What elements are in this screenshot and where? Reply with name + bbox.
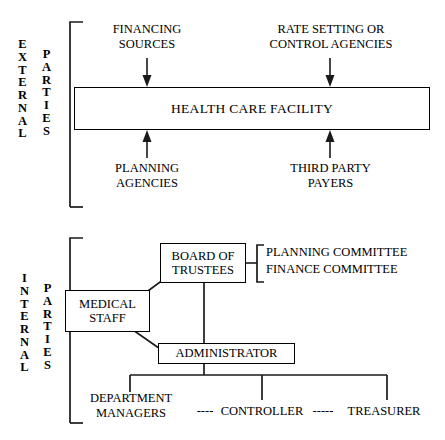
section-label-external-word: E X T E R N A L <box>18 38 27 140</box>
connector-layer <box>0 0 445 440</box>
third-party-payers-label: THIRD PARTY PAYERS <box>258 161 403 190</box>
vletter: A <box>42 61 51 74</box>
treasurer-label: TREASURER <box>341 404 427 419</box>
financing-sources-arrowhead <box>143 75 152 87</box>
planning-committee-label: PLANNING COMMITTEE <box>266 245 441 260</box>
committee-bracket <box>257 245 264 282</box>
section-label-external-parties: P A R T I E S <box>42 48 51 137</box>
finance-committee-label: FINANCE COMMITTEE <box>266 262 441 277</box>
treasurer-dash-right: ----- <box>303 404 343 419</box>
vletter: N <box>18 102 27 115</box>
rate-setting-arrowhead <box>326 75 335 87</box>
financing-sources-label: FINANCING SOURCES <box>87 22 207 51</box>
vletter: S <box>44 359 51 372</box>
vletter: X <box>18 51 27 64</box>
vletter: L <box>20 361 28 374</box>
vletter: P <box>44 282 52 295</box>
controller-dash-left: ---- <box>188 404 222 419</box>
administrator-box: ADMINISTRATOR <box>158 343 295 364</box>
vletter: R <box>18 89 27 102</box>
section-label-internal-parties: P A R T I E S <box>43 282 52 371</box>
vletter: N <box>20 285 29 298</box>
controller-label: CONTROLLER <box>219 404 305 419</box>
planning-agencies-label: PLANNING AGENCIES <box>87 161 207 190</box>
vletter: P <box>43 48 51 61</box>
department-managers-label: DEPARTMENT MANAGERS <box>72 391 190 420</box>
vletter: L <box>18 127 26 140</box>
vletter: I <box>45 333 50 346</box>
vletter: N <box>20 336 29 349</box>
vletter: A <box>43 295 52 308</box>
vletter: S <box>43 125 50 138</box>
vletter: E <box>18 38 26 51</box>
planning-agencies-arrowhead <box>143 130 152 142</box>
vletter: I <box>22 272 27 285</box>
section-label-internal-word: I N T E R N A L <box>20 272 29 374</box>
vletter: E <box>43 346 51 359</box>
third-party-payers-arrowhead <box>326 130 335 142</box>
vletter: E <box>42 112 50 125</box>
health-care-facility-box: HEALTH CARE FACILITY <box>74 87 430 130</box>
medical-staff-box: MEDICAL STAFF <box>65 290 150 332</box>
diagram-canvas: E X T E R N A L P A R T I E S I N T E R … <box>0 0 445 440</box>
vletter: I <box>44 99 49 112</box>
vletter: R <box>20 323 29 336</box>
board-of-trustees-box: BOARD OF TRUSTEES <box>160 243 246 283</box>
rate-setting-control-agencies-label: RATE SETTING OR CONTROL AGENCIES <box>251 22 411 51</box>
